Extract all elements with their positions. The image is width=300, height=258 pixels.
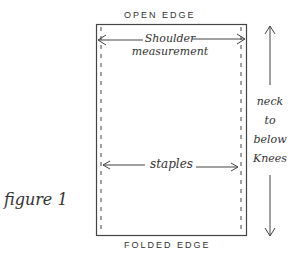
folded-edge-label: FOLDED EDGE bbox=[124, 240, 211, 250]
height-label-line3: below bbox=[252, 130, 288, 149]
height-label-line2: to bbox=[252, 111, 288, 130]
figure-caption: figure 1 bbox=[4, 190, 68, 209]
shoulder-label-line2: measurement bbox=[130, 45, 210, 58]
staples-label: staples bbox=[150, 157, 193, 171]
height-label: neck to below Knees bbox=[252, 92, 288, 168]
height-label-line1: neck bbox=[252, 92, 288, 111]
shoulder-label-line1: Shoulder bbox=[130, 32, 210, 45]
open-edge-label: OPEN EDGE bbox=[124, 10, 196, 20]
height-label-line4: Knees bbox=[252, 149, 288, 168]
shoulder-label: Shoulder measurement bbox=[130, 32, 210, 58]
